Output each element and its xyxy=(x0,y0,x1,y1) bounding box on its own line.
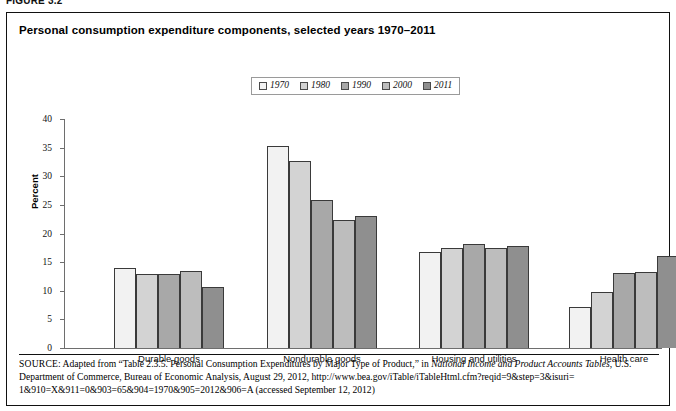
plot-area: 0510152025303540Durable goodsNondurable … xyxy=(64,119,662,348)
legend-swatch-icon xyxy=(423,82,431,90)
y-axis-tick-label: 5 xyxy=(47,314,52,324)
bar xyxy=(441,248,463,348)
source-note: SOURCE: Adapted from “Table 2.3.5. Perso… xyxy=(19,358,659,397)
legend-item-label: 2011 xyxy=(434,81,452,91)
y-axis-tick-label: 25 xyxy=(43,200,53,210)
bar xyxy=(463,244,485,348)
legend-item: 2011 xyxy=(423,81,452,91)
figure-container: FIGURE 3.2 Personal consumption expendit… xyxy=(0,0,676,411)
y-axis-tick: 25 xyxy=(60,205,64,206)
y-axis-tick: 40 xyxy=(60,119,64,120)
legend-item: 2000 xyxy=(382,81,412,91)
bar xyxy=(267,146,289,348)
source-line1-italic: National Income and Product Accounts Tab… xyxy=(431,358,609,369)
figure-frame: Personal consumption expenditure compone… xyxy=(6,12,670,406)
y-axis-tick-label: 15 xyxy=(43,257,53,267)
source-prefix: SOURCE xyxy=(19,358,58,369)
y-axis-tick-label: 10 xyxy=(43,286,53,296)
y-axis-tick: 20 xyxy=(60,234,64,235)
source-line1-a: : Adapted from “Table 2.3.5. Personal Co… xyxy=(58,358,431,369)
y-axis-tick-label: 0 xyxy=(47,343,52,353)
source-line1-b: , xyxy=(610,358,612,369)
legend-swatch-icon xyxy=(300,82,308,90)
bar xyxy=(635,272,657,348)
bar xyxy=(202,287,224,348)
chart-legend: 19701980199020002011 xyxy=(251,77,460,95)
bar xyxy=(613,273,635,348)
y-axis-tick: 0 xyxy=(60,348,64,349)
y-axis-tick-label: 20 xyxy=(43,229,53,239)
y-axis-tick-label: 40 xyxy=(43,114,53,124)
y-axis-tick: 10 xyxy=(60,291,64,292)
source-line3: 1&910=X&911=0&903=65&904=1970&905=2012&9… xyxy=(19,384,375,395)
bar xyxy=(657,256,676,348)
bar-group xyxy=(267,119,377,348)
bar xyxy=(311,200,333,348)
bar xyxy=(180,271,202,348)
y-axis-tick: 15 xyxy=(60,262,64,263)
chart-title: Personal consumption expenditure compone… xyxy=(19,24,436,36)
bar-group xyxy=(114,119,224,348)
legend-swatch-icon xyxy=(341,82,349,90)
figure-number-label: FIGURE 3.2 xyxy=(6,0,62,6)
bar xyxy=(591,292,613,348)
y-axis-tick: 35 xyxy=(60,148,64,149)
legend-item-label: 2000 xyxy=(393,81,412,91)
legend-item: 1970 xyxy=(259,81,289,91)
legend-item: 1980 xyxy=(300,81,330,91)
bar xyxy=(569,307,591,348)
y-axis-tick: 30 xyxy=(60,176,64,177)
bar xyxy=(419,252,441,348)
bar xyxy=(158,274,180,348)
bar xyxy=(355,216,377,348)
legend-swatch-icon xyxy=(259,82,267,90)
bar-group xyxy=(569,119,676,348)
y-axis-tick: 5 xyxy=(60,319,64,320)
bar xyxy=(114,268,136,348)
source-divider xyxy=(19,354,659,355)
bar xyxy=(136,274,158,348)
bar-group xyxy=(419,119,529,348)
y-axis-tick-label: 30 xyxy=(43,171,53,181)
y-axis-line xyxy=(64,119,65,348)
bar xyxy=(507,246,529,348)
bar xyxy=(485,248,507,348)
legend-item: 1990 xyxy=(341,81,371,91)
legend-item-label: 1970 xyxy=(270,81,289,91)
y-axis-label: Percent xyxy=(29,174,40,209)
bar xyxy=(289,161,311,348)
y-axis-tick-label: 35 xyxy=(43,143,53,153)
legend-swatch-icon xyxy=(382,82,390,90)
legend-item-label: 1990 xyxy=(352,81,371,91)
legend-item-label: 1980 xyxy=(311,81,330,91)
bar xyxy=(333,220,355,348)
